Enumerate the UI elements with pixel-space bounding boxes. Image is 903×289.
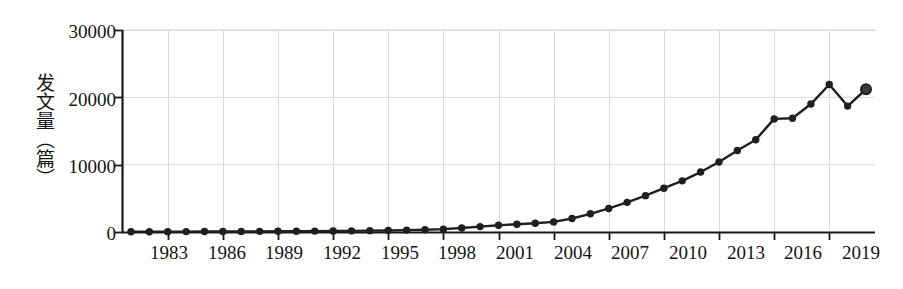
data-point-marker xyxy=(476,223,483,230)
data-point-marker xyxy=(127,228,134,235)
data-point-marker xyxy=(826,81,833,88)
series-line xyxy=(131,85,866,232)
data-point-marker xyxy=(146,228,153,235)
chart-figure: 发文量（篇） 30000 20000 10000 0 1983 1986 198… xyxy=(0,0,903,289)
data-point-marker xyxy=(366,227,373,234)
data-point-marker xyxy=(421,226,428,233)
data-point-marker xyxy=(679,177,686,184)
data-point-marker xyxy=(182,228,189,235)
tick-marks xyxy=(114,31,830,241)
data-point-marker xyxy=(348,227,355,234)
data-point-marker xyxy=(605,205,612,212)
data-point-marker xyxy=(789,115,796,122)
data-point-marker xyxy=(293,227,300,234)
data-point-marker xyxy=(550,218,557,225)
data-point-marker xyxy=(660,185,667,192)
data-point-marker xyxy=(403,226,410,233)
data-point-marker xyxy=(568,215,575,222)
plot-area xyxy=(0,0,903,289)
data-point-marker xyxy=(587,210,594,217)
data-point-marker xyxy=(385,227,392,234)
data-point-marker xyxy=(164,228,171,235)
data-point-marker xyxy=(861,84,871,94)
data-point-marker xyxy=(642,192,649,199)
data-point-marker xyxy=(274,228,281,235)
data-point-marker xyxy=(256,228,263,235)
data-point-marker xyxy=(532,220,539,227)
data-point-marker xyxy=(770,115,777,122)
data-point-marker xyxy=(201,228,208,235)
data-point-marker xyxy=(697,168,704,175)
data-point-marker xyxy=(715,158,722,165)
data-point-marker xyxy=(844,102,851,109)
data-point-marker xyxy=(734,147,741,154)
data-point-marker xyxy=(238,228,245,235)
data-point-marker xyxy=(513,221,520,228)
data-point-marker xyxy=(329,227,336,234)
data-point-marker xyxy=(458,224,465,231)
data-point-marker xyxy=(219,228,226,235)
data-point-marker xyxy=(752,136,759,143)
data-point-marker xyxy=(623,199,630,206)
data-point-marker xyxy=(495,222,502,229)
data-point-marker xyxy=(440,225,447,232)
data-point-marker xyxy=(807,100,814,107)
data-point-marker xyxy=(311,227,318,234)
